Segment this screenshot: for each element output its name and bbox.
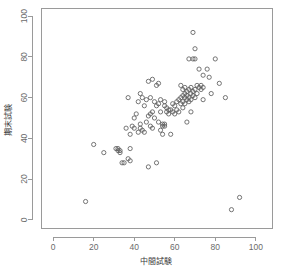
y-tick-label: 60 — [19, 93, 29, 103]
data-point — [152, 100, 156, 104]
x-tick-label: 20 — [89, 242, 99, 252]
data-point — [126, 96, 130, 100]
data-point — [124, 126, 128, 130]
data-point — [140, 96, 144, 100]
data-point — [92, 142, 96, 146]
data-point — [144, 98, 148, 102]
y-tick-label: 80 — [19, 52, 29, 62]
scatter-plot-figure: 020406080100 020406080100 中間試験 期末試験 — [0, 0, 290, 271]
data-point — [163, 100, 167, 104]
data-point — [138, 122, 142, 126]
data-point — [158, 128, 162, 132]
x-axis — [53, 237, 256, 241]
data-point — [152, 116, 156, 120]
data-point — [197, 67, 201, 71]
y-axis-tick-labels: 020406080100 — [19, 9, 29, 222]
data-point — [213, 57, 217, 61]
data-point — [136, 130, 140, 134]
data-point — [201, 98, 205, 102]
data-point — [150, 77, 154, 81]
data-point — [185, 120, 189, 124]
y-tick-label: 0 — [19, 217, 29, 222]
data-point — [144, 120, 148, 124]
x-axis-tick-labels: 020406080100 — [51, 242, 263, 252]
y-axis — [28, 16, 32, 220]
y-tick-label: 40 — [19, 133, 29, 143]
data-point — [223, 96, 227, 100]
data-point — [146, 79, 150, 83]
data-point — [128, 132, 132, 136]
data-point — [191, 30, 195, 34]
x-tick-label: 40 — [129, 242, 139, 252]
data-point — [154, 161, 158, 165]
data-point — [132, 116, 136, 120]
data-point — [158, 110, 162, 114]
data-point — [146, 165, 150, 169]
data-point — [102, 151, 106, 155]
data-point — [83, 199, 87, 203]
data-point — [207, 75, 211, 79]
y-tick-label: 20 — [19, 174, 29, 184]
data-point — [209, 91, 213, 95]
chart-canvas: 020406080100 020406080100 中間試験 期末試験 — [0, 0, 290, 271]
data-point — [142, 104, 146, 108]
data-point — [181, 106, 185, 110]
data-point — [205, 67, 209, 71]
data-point — [201, 73, 205, 77]
x-axis-title: 中間試験 — [140, 256, 172, 266]
x-tick-label: 100 — [249, 242, 263, 252]
x-tick-label: 80 — [211, 242, 221, 252]
data-point — [237, 195, 241, 199]
data-point — [138, 91, 142, 95]
data-point — [158, 98, 162, 102]
x-tick-label: 60 — [170, 242, 180, 252]
data-point — [156, 120, 160, 124]
data-point — [160, 132, 164, 136]
data-point — [128, 146, 132, 150]
data-point — [193, 47, 197, 51]
data-point — [169, 132, 173, 136]
data-point — [217, 81, 221, 85]
data-point — [148, 96, 152, 100]
y-tick-label: 100 — [19, 9, 29, 23]
data-points — [83, 30, 241, 211]
x-tick-label: 0 — [51, 242, 56, 252]
data-point — [136, 100, 140, 104]
y-axis-title: 期末試験 — [3, 104, 13, 136]
data-point — [134, 112, 138, 116]
data-point — [195, 91, 199, 95]
data-point — [187, 57, 191, 61]
data-point — [189, 110, 193, 114]
data-point — [179, 83, 183, 87]
data-point — [229, 208, 233, 212]
